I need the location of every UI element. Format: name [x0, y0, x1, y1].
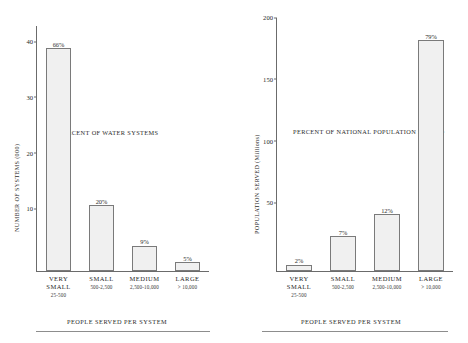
x-axis-category-range: 25-500 [37, 292, 80, 298]
x-axis-category: VERY SMALL25-500 [277, 271, 321, 298]
x-axis-category-name: LARGE [409, 275, 453, 283]
bar-slot: 5% [166, 26, 209, 271]
y-axis-tick-label: 100 [263, 137, 277, 144]
bar[interactable]: 79% [418, 40, 444, 271]
x-axis-category-name: SMALL [80, 275, 123, 283]
bar-value-label: 9% [140, 238, 149, 245]
x-axis-category-range: 2,500-10,000 [365, 284, 409, 290]
bar[interactable]: 5% [175, 262, 201, 271]
bar-slot: 79% [409, 18, 453, 271]
bar-slot: 12% [365, 18, 409, 271]
x-axis-categories-left: VERY SMALL25-500SMALL500-2,500MEDIUM2,50… [37, 271, 209, 298]
x-axis-category-name: MEDIUM [123, 275, 166, 283]
y-axis-tick-label: 200 [263, 14, 277, 21]
bar-slot: 9% [123, 26, 166, 271]
y-axis-tick-label: 40 [26, 38, 37, 45]
x-axis-category-name: VERY SMALL [37, 275, 80, 291]
bar[interactable]: 12% [374, 214, 400, 271]
plot-area-left: PERCENT OF WATER SYSTEMS 66%20%9%5% VERY… [36, 26, 209, 272]
y-axis-tick-label: 30 [26, 93, 37, 100]
x-axis-category-name: MEDIUM [365, 275, 409, 283]
x-axis-category-range: > 10,000 [166, 284, 209, 290]
y-axis-title-right: POPULATION SERVED (Millions) [253, 134, 260, 234]
x-axis-category-range: 500-2,500 [80, 284, 123, 290]
bar-value-label: 2% [295, 257, 304, 264]
x-axis-title-left: PEOPLE SERVED PER SYSTEM [0, 318, 234, 325]
bar-value-label: 7% [339, 229, 348, 236]
footer-rule-left [36, 331, 210, 332]
bar-group-right: 2%7%12%79% [277, 18, 453, 271]
bar-slot: 66% [37, 26, 80, 271]
x-axis-title-right: PEOPLE SERVED PER SYSTEM [234, 318, 468, 325]
footer-rule-right [262, 331, 448, 332]
chart-panel-water-systems: NUMBER OF SYSTEMS (000) PERCENT OF WATER… [0, 0, 234, 343]
x-axis-category: MEDIUM2,500-10,000 [365, 271, 409, 298]
x-axis-categories-right: VERY SMALL25-500SMALL500-2,500MEDIUM2,50… [277, 271, 453, 298]
bar-group-left: 66%20%9%5% [37, 26, 209, 271]
y-axis-tick-label: 50 [266, 199, 277, 206]
bar-slot: 2% [277, 18, 321, 271]
bar-value-label: 12% [381, 207, 393, 214]
x-axis-category: LARGE> 10,000 [409, 271, 453, 298]
x-axis-category: VERY SMALL25-500 [37, 271, 80, 298]
x-axis-category-name: VERY SMALL [277, 275, 321, 291]
y-axis-tick-label: 10 [26, 205, 37, 212]
x-axis-category-name: SMALL [321, 275, 365, 283]
y-axis-tick-label: 20 [26, 149, 37, 156]
y-axis-tick-label: 150 [263, 75, 277, 82]
x-axis-category: SMALL500-2,500 [321, 271, 365, 298]
x-axis-category-range: 25-500 [277, 292, 321, 298]
bar[interactable]: 66% [46, 48, 72, 271]
two-panel-bar-figure: NUMBER OF SYSTEMS (000) PERCENT OF WATER… [0, 0, 468, 343]
bar-value-label: 79% [425, 33, 437, 40]
bar-slot: 7% [321, 18, 365, 271]
bar-value-label: 20% [96, 198, 108, 205]
x-axis-category-name: LARGE [166, 275, 209, 283]
x-axis-category: LARGE> 10,000 [166, 271, 209, 298]
bar[interactable]: 20% [89, 205, 115, 271]
plot-area-right: PERCENT OF NATIONAL POPULATION SERVED 2%… [276, 18, 453, 272]
bar-value-label: 66% [53, 41, 65, 48]
bar[interactable]: 7% [330, 236, 356, 271]
x-axis-category: SMALL500-2,500 [80, 271, 123, 298]
bar[interactable]: 9% [132, 246, 158, 271]
y-axis-title-left: NUMBER OF SYSTEMS (000) [13, 144, 20, 232]
chart-panel-population-served: POPULATION SERVED (Millions) PERCENT OF … [234, 0, 468, 343]
x-axis-category: MEDIUM2,500-10,000 [123, 271, 166, 298]
bar-slot: 20% [80, 26, 123, 271]
bar-value-label: 5% [183, 255, 192, 262]
x-axis-category-range: 500-2,500 [321, 284, 365, 290]
x-axis-category-range: 2,500-10,000 [123, 284, 166, 290]
x-axis-category-range: > 10,000 [409, 284, 453, 290]
